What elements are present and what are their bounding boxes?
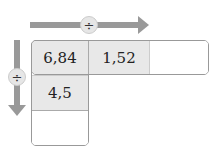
cell-row-1: 6,84 xyxy=(32,41,89,74)
horizontal-divide-icon: ÷ xyxy=(80,16,98,34)
cell-row-2: 1,52 xyxy=(89,41,149,74)
vertical-divide-icon: ÷ xyxy=(8,68,26,86)
right-arrow-icon xyxy=(138,16,149,34)
down-arrow-icon xyxy=(8,105,26,116)
cell-row-3-answer[interactable] xyxy=(149,41,208,74)
row-grid: 6,84 1,52 xyxy=(31,40,209,75)
cell-column-3-answer[interactable] xyxy=(32,110,88,145)
cell-column-2: 4,5 xyxy=(32,75,88,110)
